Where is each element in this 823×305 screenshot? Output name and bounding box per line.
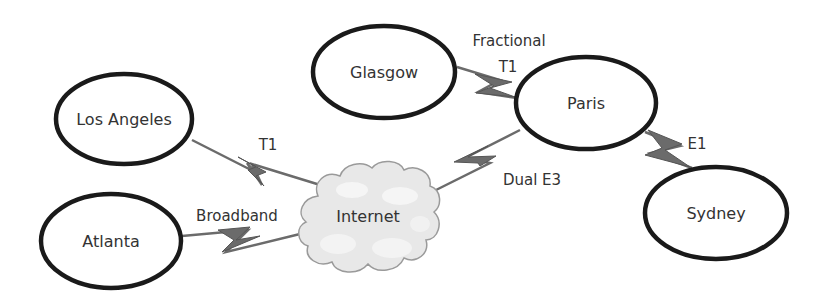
link-label-broadband: Broadband — [196, 207, 278, 225]
los-angeles-label: Los Angeles — [76, 110, 172, 129]
internet-cloud: Internet — [299, 161, 440, 272]
link-label-t1: T1 — [258, 136, 278, 154]
node-sydney: Sydney — [645, 167, 787, 259]
node-paris: Paris — [516, 57, 656, 149]
sydney-label: Sydney — [686, 204, 745, 223]
paris-label: Paris — [567, 94, 605, 113]
network-diagram: Internet Los Angeles Atlanta Glasgow Par… — [0, 0, 823, 305]
link-label-dual-e3: Dual E3 — [503, 171, 561, 189]
link-label-e1: E1 — [687, 135, 706, 153]
internet-label: Internet — [336, 207, 400, 226]
link-label-fractional-t1: T1 — [498, 58, 518, 76]
link-label-fractional: Fractional — [472, 32, 545, 50]
link-atlanta-internet — [182, 227, 300, 252]
glasgow-label: Glasgow — [350, 63, 418, 82]
atlanta-label: Atlanta — [82, 232, 139, 251]
link-paris-sydney — [645, 130, 692, 168]
node-los-angeles: Los Angeles — [56, 74, 192, 164]
node-glasgow: Glasgow — [313, 26, 455, 118]
node-atlanta: Atlanta — [41, 194, 181, 288]
